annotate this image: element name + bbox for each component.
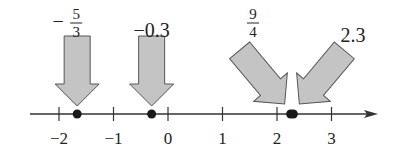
- tick-label: 1: [218, 129, 227, 148]
- pointer-arrow-icon: [55, 36, 99, 106]
- pointer-arrow-icon: [223, 36, 302, 118]
- fraction-numerator: 9: [249, 6, 257, 22]
- point-marker: [73, 110, 82, 119]
- number-line-figure: −2−10123 −53−0.3942.3: [0, 0, 402, 151]
- fraction-denominator: 3: [72, 24, 80, 40]
- fraction-denominator: 4: [249, 24, 257, 40]
- fraction-sign: −: [53, 10, 64, 32]
- point-marker: [147, 110, 156, 119]
- fraction-label: 94: [247, 6, 259, 40]
- point-marker: [289, 110, 298, 119]
- pointer-arrow-icon: [282, 36, 361, 118]
- pointer-arrow-icon: [130, 36, 174, 106]
- tick-label: 3: [327, 129, 336, 148]
- fraction-label: −53: [53, 6, 83, 40]
- tick-label: −1: [104, 129, 122, 148]
- tick-label: −2: [50, 129, 68, 148]
- fraction-numerator: 5: [72, 6, 80, 22]
- tick-label: 0: [164, 129, 173, 148]
- tick-label: 2: [273, 129, 282, 148]
- value-label: −0.3: [134, 19, 170, 41]
- value-label: 2.3: [341, 24, 366, 46]
